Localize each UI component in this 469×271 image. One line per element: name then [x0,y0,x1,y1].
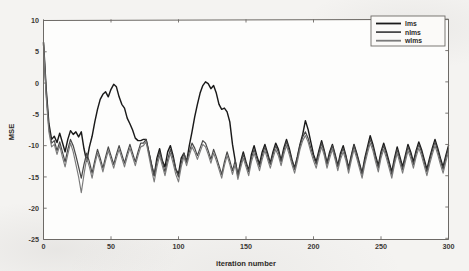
chart-figure: 050100150200250300 1050-5-10-15-20-25 it… [0,0,469,271]
x-tick-label: 250 [375,242,387,251]
legend-label-nlms: nlms [405,29,421,36]
y-tick-label: -25 [29,235,39,244]
chart-legend: lmsnlmswlms [371,16,445,46]
x-axis-title: iteration number [216,259,276,268]
mse-convergence-line-chart: 050100150200250300 1050-5-10-15-20-25 it… [0,0,469,271]
y-tick-label: 5 [35,47,39,56]
x-tick-label: 100 [173,242,185,251]
x-tick-label: 0 [42,242,46,251]
x-axis-tick-labels: 050100150200250300 [42,242,455,251]
legend-label-lms: lms [405,20,417,27]
y-axis-tick-labels: 1050-5-10-15-20-25 [29,16,39,244]
y-tick-label: -15 [29,173,39,182]
y-tick-label: -20 [29,204,39,213]
x-tick-label: 300 [443,242,455,251]
x-tick-label: 200 [308,242,320,251]
x-tick-label: 50 [107,242,115,251]
y-tick-label: -5 [33,110,39,119]
y-axis-title: MSE [7,124,16,140]
y-tick-label: 0 [35,79,39,88]
y-tick-label: 10 [31,16,39,25]
legend-label-wlms: wlms [404,37,422,44]
plot-area-background [44,21,449,240]
y-tick-label: -10 [29,141,39,150]
x-tick-label: 150 [240,242,252,251]
